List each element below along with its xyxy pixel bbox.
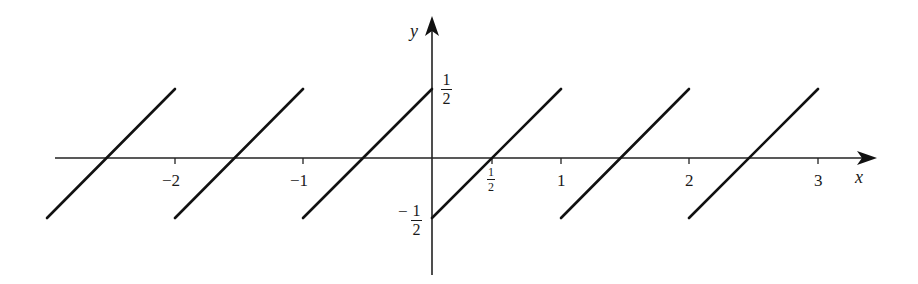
fraction-numerator: 1 [488, 166, 494, 178]
segment-5 [561, 89, 689, 218]
fraction-denominator: 2 [443, 91, 451, 107]
x-tick-label-1: 1 [557, 172, 566, 189]
y-tick-label-neg-half: 1 2 [411, 203, 422, 238]
y-tick-label-half: 1 2 [441, 72, 452, 107]
segment-2 [175, 89, 303, 218]
x-tick-label-2: 2 [685, 172, 694, 189]
x-tick-label-neg2: −2 [162, 172, 180, 189]
y-tick-label-neg-half-minus: − [398, 202, 408, 222]
segment-1 [47, 89, 175, 218]
fraction-denominator: 2 [488, 181, 494, 193]
segment-6 [689, 89, 818, 218]
y-axis [425, 16, 439, 275]
y-axis-label: y [410, 22, 418, 40]
fraction-numerator: 1 [413, 203, 421, 219]
x-tick-label-3: 3 [814, 172, 823, 189]
fraction-denominator: 2 [413, 222, 421, 238]
x-axis-label: x [855, 168, 863, 186]
x-tick-label-half: 1 2 [487, 166, 495, 193]
fraction-numerator: 1 [443, 72, 451, 88]
segment-3 [303, 89, 432, 218]
x-tick-label-neg1: −1 [290, 172, 308, 189]
sawtooth-plot [0, 0, 918, 284]
segment-4 [432, 89, 561, 218]
